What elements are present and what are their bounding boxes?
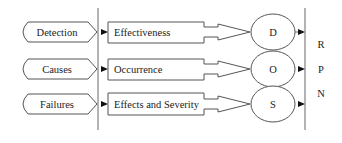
- rating-label-s: S: [270, 99, 276, 110]
- rating-label-d: D: [269, 27, 277, 38]
- input-label-detection: Detection: [37, 27, 79, 38]
- arrow-icon: [298, 66, 305, 72]
- input-label-failures: Failures: [40, 99, 74, 110]
- arrow-icon: [101, 66, 108, 72]
- arrow-icon: [101, 29, 108, 35]
- rpn-letter-n: N: [317, 88, 325, 99]
- arrow-icon: [298, 29, 305, 35]
- rating-label-o: O: [269, 64, 277, 75]
- row-detection: Detection Effectiveness D: [23, 14, 305, 50]
- rpn-letter-p: P: [318, 64, 324, 75]
- rpn-output: R P N: [317, 39, 325, 99]
- arrow-icon: [298, 101, 305, 107]
- row-failures: Failures Effects and Severity S: [23, 86, 305, 122]
- factor-label-occurrence: Occurrence: [114, 64, 163, 75]
- factor-label-effectiveness: Effectiveness: [114, 27, 170, 38]
- input-label-causes: Causes: [42, 64, 72, 75]
- arrow-icon: [101, 101, 108, 107]
- fmea-rpn-diagram: Detection Effectiveness D Causes Occurre…: [0, 0, 342, 143]
- rpn-letter-r: R: [317, 39, 324, 50]
- factor-label-effects-severity: Effects and Severity: [114, 99, 200, 110]
- row-causes: Causes Occurrence O: [23, 51, 305, 87]
